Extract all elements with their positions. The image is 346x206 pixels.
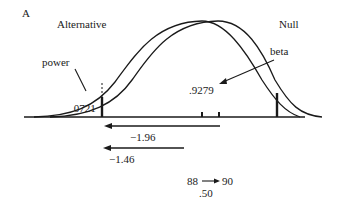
mean-to-label: 90 <box>222 175 234 187</box>
power-value: .0721 <box>71 102 96 114</box>
panel-label: A <box>22 7 30 19</box>
z-critical-arrowhead-icon <box>104 123 112 129</box>
alternative-curve-label: Alternative <box>57 18 107 30</box>
power-label: power <box>42 56 70 68</box>
z-shift-arrowhead-icon <box>103 145 111 151</box>
z-shift-label: −1.46 <box>109 153 135 165</box>
null-curve-label: Null <box>279 18 299 30</box>
beta-label: beta <box>270 45 288 57</box>
power-analysis-diagram: A Alternative Null power .0721 beta .927… <box>0 0 346 206</box>
mean-difference-label: .50 <box>199 187 213 199</box>
z-critical-label: −1.96 <box>130 131 156 143</box>
mean-from-label: 88 <box>187 175 199 187</box>
beta-arrowhead-icon <box>219 78 227 84</box>
beta-pointer-line <box>223 60 274 82</box>
beta-value: .9279 <box>189 84 214 96</box>
mean-shift-arrowhead-icon <box>214 179 220 184</box>
power-pointer-line <box>75 69 86 91</box>
